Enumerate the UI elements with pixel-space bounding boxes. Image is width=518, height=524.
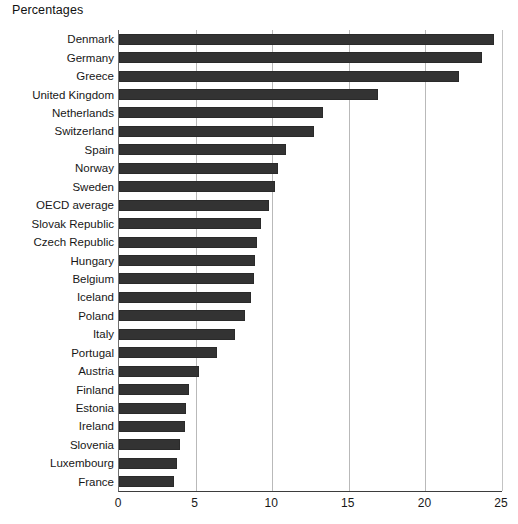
bar-row [119,104,502,122]
bar [119,255,255,266]
bar [119,89,378,100]
y-axis-label: Germany [0,52,114,64]
bar [119,458,177,469]
bar-row [119,380,502,398]
bar [119,218,261,229]
x-axis-tick-label: 5 [191,496,198,510]
y-axis-label: Spain [0,144,114,156]
bars-layer [119,30,502,491]
y-axis-label: Portugal [0,347,114,359]
bar [119,421,185,432]
bar-row [119,270,502,288]
bar-row [119,454,502,472]
bar-row [119,159,502,177]
bar-row [119,473,502,491]
bar-row [119,85,502,103]
x-axis-tick-label: 20 [418,496,431,510]
y-axis-label: Slovenia [0,439,114,451]
bar [119,107,323,118]
bar-row [119,214,502,232]
y-axis-label: Iceland [0,291,114,303]
y-axis-label: Belgium [0,273,114,285]
bar [119,366,199,377]
y-axis-label: Norway [0,162,114,174]
bar [119,329,235,340]
bar [119,476,174,487]
bar [119,310,245,321]
x-axis-tick-label: 25 [494,496,507,510]
y-axis-label: United Kingdom [0,89,114,101]
y-axis-label: OECD average [0,199,114,211]
y-axis-label: Greece [0,70,114,82]
bar [119,126,314,137]
chart-title: Percentages [12,3,83,17]
bar [119,403,186,414]
y-axis-label: Austria [0,365,114,377]
bar [119,292,251,303]
bar [119,273,254,284]
y-axis-label: Slovak Republic [0,218,114,230]
bar-row [119,399,502,417]
y-axis-label: Denmark [0,33,114,45]
bar [119,181,275,192]
bar-row [119,343,502,361]
y-axis-label: Hungary [0,255,114,267]
bar-row [119,362,502,380]
y-axis-label: Sweden [0,181,114,193]
bar [119,439,180,450]
bar [119,384,189,395]
bar-row [119,122,502,140]
bar-row [119,307,502,325]
y-axis-label: Luxembourg [0,457,114,469]
y-axis-label: Estonia [0,402,114,414]
bar-row [119,141,502,159]
bar [119,144,286,155]
bar [119,34,494,45]
y-axis-label: France [0,476,114,488]
bar-chart: Percentages DenmarkGermanyGreeceUnited K… [0,0,518,524]
bar [119,52,482,63]
x-axis-tick-label: 10 [265,496,278,510]
bar [119,347,217,358]
bar-row [119,48,502,66]
bar [119,163,278,174]
x-axis-tick-label: 15 [341,496,354,510]
plot-area [118,30,502,492]
bar-row [119,178,502,196]
bar-row [119,233,502,251]
bar-row [119,30,502,48]
y-axis-label: Switzerland [0,125,114,137]
bar-row [119,251,502,269]
y-axis-label: Italy [0,328,114,340]
y-axis-label: Poland [0,310,114,322]
bar-row [119,325,502,343]
bar-row [119,288,502,306]
y-axis-label: Netherlands [0,107,114,119]
x-axis-tick-labels: 0510152025 [0,496,518,518]
bar [119,237,257,248]
y-axis-label: Finland [0,384,114,396]
bar [119,200,269,211]
bar [119,71,459,82]
y-axis-label: Czech Republic [0,236,114,248]
bar-row [119,196,502,214]
y-axis-category-labels: DenmarkGermanyGreeceUnited KingdomNether… [0,30,114,491]
x-axis-tick-label: 0 [115,496,122,510]
gridline-25 [502,30,503,491]
y-axis-label: Ireland [0,420,114,432]
bar-row [119,436,502,454]
bar-row [119,67,502,85]
bar-row [119,417,502,435]
